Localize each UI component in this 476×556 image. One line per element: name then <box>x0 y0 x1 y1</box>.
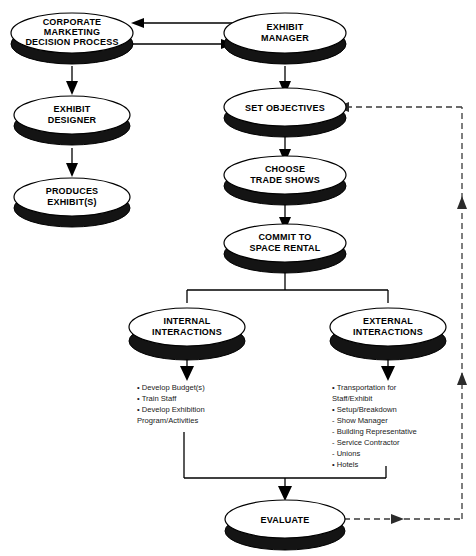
node-label-line-1: EXHIBIT <box>54 104 91 114</box>
evaluate-feedback-arrow <box>344 514 462 524</box>
node-label-line-1: EXTERNAL <box>363 316 413 326</box>
node-commit-to-space-rental[interactable]: COMMIT TO SPACE RENTAL <box>224 224 346 273</box>
feedback-to-objectives-arrow <box>336 102 462 112</box>
list-item: Staff/Exhibit <box>332 394 373 403</box>
node-corporate-marketing-decision-process[interactable]: CORPORATE MARKETING DECISION PROCESS <box>11 13 133 64</box>
node-produces-exhibits[interactable]: PRODUCES EXHIBIT(S) <box>14 178 130 227</box>
node-exhibit-designer[interactable]: EXHIBIT DESIGNER <box>14 96 130 145</box>
external-to-list-arrow <box>381 360 395 381</box>
list-item: Program/Activities <box>137 416 198 425</box>
node-label-line-2: MARKETING <box>44 27 100 37</box>
node-label-line-1: CHOOSE <box>265 164 305 174</box>
node-set-objectives[interactable]: SET OBJECTIVES <box>224 88 346 137</box>
list-item: • Setup/Breakdown <box>332 405 397 414</box>
list-item: • Train Staff <box>137 394 177 403</box>
list-item: • Hotels <box>332 460 358 469</box>
node-label-line-1: PRODUCES <box>46 186 99 196</box>
list-item: - Building Representative <box>332 427 417 436</box>
internal-to-list-arrow <box>180 360 194 381</box>
node-internal-interactions[interactable]: INTERNAL INTERACTIONS <box>129 308 245 360</box>
node-label-line-2: MANAGER <box>261 33 309 43</box>
internal-interactions-task-list: • Develop Budget(s) • Train Staff • Deve… <box>137 383 205 425</box>
node-evaluate[interactable]: EVALUATE <box>225 500 345 550</box>
node-label-line-2: EXHIBIT(S) <box>47 197 97 207</box>
list-item: - Unions <box>332 449 360 458</box>
feedback-loop-up <box>457 107 467 519</box>
node-label-line-2: INTERACTIONS <box>353 327 423 337</box>
node-label-line-2: INTERACTIONS <box>152 327 222 337</box>
node-choose-trade-shows[interactable]: CHOOSE TRADE SHOWS <box>224 156 346 205</box>
designer-to-produces-arrow <box>66 148 78 177</box>
flowchart-canvas: CORPORATE MARKETING DECISION PROCESS EXH… <box>0 0 476 556</box>
node-label-line-1: COMMIT TO <box>258 232 311 242</box>
list-item: • Transportation for <box>332 383 397 392</box>
node-label-line-2: DESIGNER <box>48 115 97 125</box>
node-exhibit-manager[interactable]: EXHIBIT MANAGER <box>224 13 346 64</box>
list-item: • Develop Budget(s) <box>137 383 205 392</box>
node-label-line-2: SPACE RENTAL <box>249 243 320 253</box>
node-label-line-3: DECISION PROCESS <box>25 37 118 47</box>
flowchart-svg: CORPORATE MARKETING DECISION PROCESS EXH… <box>0 0 476 556</box>
list-item: - Service Contractor <box>332 438 400 447</box>
node-label-line-2: TRADE SHOWS <box>250 175 320 185</box>
node-label-line-1: EXHIBIT <box>267 22 304 32</box>
external-interactions-task-list: • Transportation for Staff/Exhibit • Set… <box>332 383 417 469</box>
node-external-interactions[interactable]: EXTERNAL INTERACTIONS <box>330 308 446 360</box>
list-item: - Show Manager <box>332 416 388 425</box>
list-item: • Develop Exhibition <box>137 405 205 414</box>
node-label-line-1: CORPORATE <box>43 17 102 27</box>
corporate-to-manager-arrow <box>128 39 234 49</box>
corporate-to-designer-arrow <box>66 66 78 95</box>
node-label-line-1: SET OBJECTIVES <box>245 103 325 113</box>
node-label-line-1: INTERNAL <box>163 316 210 326</box>
node-label-line-1: EVALUATE <box>261 515 310 525</box>
commit-to-interactions-fork <box>187 273 388 303</box>
